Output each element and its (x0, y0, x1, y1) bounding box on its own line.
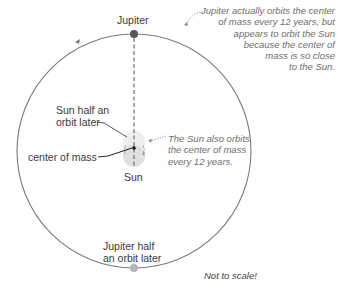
note-sun-orbit: The Sun also orbits the center of mass e… (168, 133, 250, 167)
note-line: every 12 years. (168, 156, 250, 167)
note-line: mass is so close (192, 50, 335, 61)
note-line: to the Sun. (192, 61, 335, 72)
note-line: the center of mass (168, 144, 250, 155)
jupiter (130, 30, 138, 38)
center-of-mass-dot (132, 146, 136, 150)
label-line: Sun half an (56, 104, 109, 116)
label-jupiter: Jupiter (117, 14, 149, 26)
label-line: Jupiter half (103, 240, 161, 252)
label-line: orbit later (56, 116, 109, 128)
orbit-direction-arrow-icon (75, 39, 80, 44)
label-sun-half-orbit-later: Sun half an orbit later (56, 104, 109, 128)
leader-sun-note-arrow-icon (148, 139, 152, 143)
note-line: because the center of (192, 39, 335, 50)
label-sun: Sun (124, 171, 143, 183)
note-line: The Sun also orbits (168, 133, 250, 144)
label-not-to-scale: Not to scale! (204, 270, 257, 281)
note-jupiter-orbit: Jupiter actually orbits the center of ma… (192, 5, 335, 73)
note-line: Jupiter actually orbits the center (192, 5, 335, 16)
note-line: of mass every 12 years, but (192, 16, 335, 27)
note-line: appears to orbit the Sun (192, 28, 335, 39)
jupiter-half-orbit-later (130, 264, 138, 272)
label-jupiter-half-orbit-later: Jupiter half an orbit later (103, 240, 161, 264)
label-center-of-mass: center of mass (28, 151, 97, 163)
label-line: an orbit later (103, 252, 161, 264)
leader-sun-note (150, 136, 166, 141)
